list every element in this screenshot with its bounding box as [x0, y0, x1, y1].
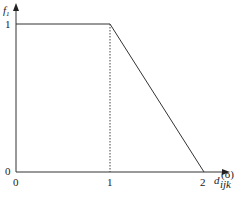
x-tick-1: 1	[107, 176, 113, 188]
y-tick-1: 1	[5, 18, 11, 30]
x-tick-2: 2	[200, 176, 206, 188]
x-axis-label-sub: ijk	[220, 178, 232, 190]
y-axis-arrow-icon	[13, 3, 19, 11]
chart-canvas: f1 1 0 0 1 2 d (o) ijk	[0, 0, 234, 197]
x-tick-0: 0	[13, 176, 19, 188]
y-axis-label: f1	[3, 4, 10, 18]
y-tick-0: 0	[5, 165, 11, 177]
